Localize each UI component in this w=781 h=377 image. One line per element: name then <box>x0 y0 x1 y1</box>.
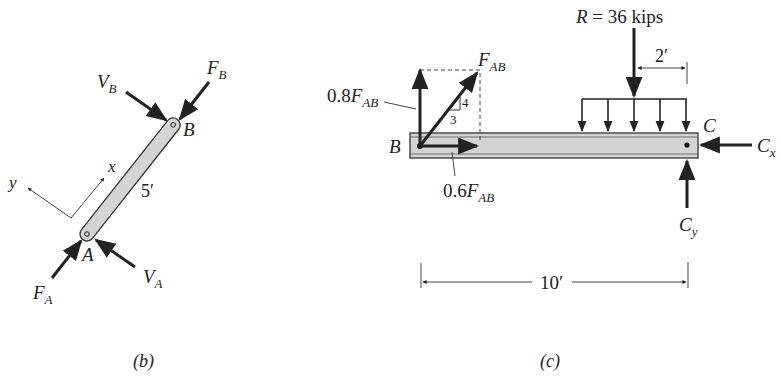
caption-c: (c) <box>540 351 560 372</box>
force-vb-arrow-icon <box>126 92 166 120</box>
point-c-label: C <box>703 115 716 136</box>
force-fab-label: FAB <box>477 49 506 74</box>
figure-b: y x 5′ B A VB FB FA VA (b) <box>7 57 227 372</box>
point-b-label: B <box>389 136 401 157</box>
force-horizontal-component-label: 0.6FAB <box>443 180 494 205</box>
force-fa-label: FA <box>32 282 53 307</box>
pin-c-icon <box>684 142 689 147</box>
figure-c: 4 3 FAB 0.8FAB 0.6FAB B C R = 36 kips 2′… <box>327 6 776 372</box>
slope-rise-label: 4 <box>462 95 469 110</box>
point-b-label: B <box>183 119 195 140</box>
slope-run-label: 3 <box>450 112 457 127</box>
point-a-label: A <box>80 244 94 265</box>
y-axis-arrow-icon <box>28 188 71 218</box>
resultant-label: R = 36 kips <box>575 6 663 27</box>
force-va-arrow-icon <box>96 240 135 267</box>
force-fb-label: FB <box>206 57 227 82</box>
free-body-diagram-figure: y x 5′ B A VB FB FA VA (b) <box>0 0 781 377</box>
force-cy-label: Cy <box>679 214 698 239</box>
force-va-label: VA <box>143 266 163 291</box>
dimension-2ft-label: 2′ <box>655 46 668 66</box>
leader-vertical-component <box>384 102 416 109</box>
member-ab <box>77 115 183 244</box>
caption-b: (b) <box>133 351 154 372</box>
member-length-label: 5′ <box>141 181 154 201</box>
y-axis-label: y <box>7 173 17 192</box>
force-vb-label: VB <box>97 71 117 96</box>
span-label: 10′ <box>540 272 563 293</box>
force-fb-arrow-icon <box>180 82 209 119</box>
force-vertical-component-label: 0.8FAB <box>327 85 378 110</box>
x-axis-label: x <box>107 157 116 176</box>
distributed-load <box>582 99 687 131</box>
force-cx-label: Cx <box>757 135 776 160</box>
force-fa-arrow-icon <box>52 241 81 278</box>
